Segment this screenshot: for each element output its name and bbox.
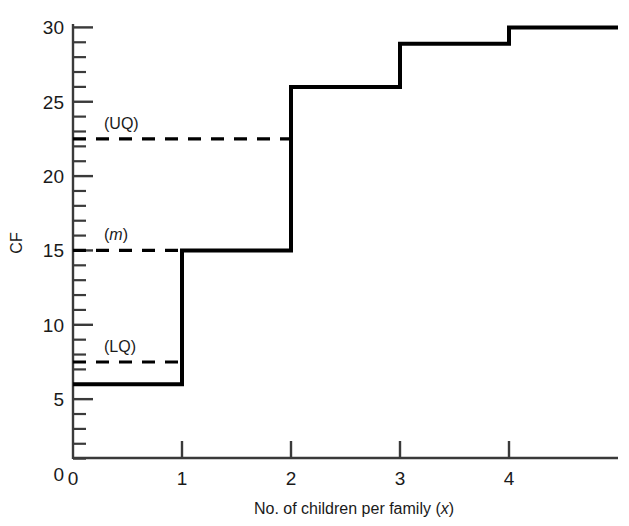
x-axis-title-main: No. of children per family ( (254, 500, 441, 517)
y-axis-tick-label: 25 (43, 92, 64, 113)
x-axis-tick-label: 1 (177, 468, 188, 489)
x-axis-title: No. of children per family (x) (254, 500, 454, 517)
y-axis-tick-label: 20 (43, 166, 64, 187)
y-axis-tick-label: 15 (43, 240, 64, 261)
reference-label-median: (m) (104, 226, 128, 243)
y-axis-tick-label: 10 (43, 315, 64, 336)
chart-figure: 051015202530 01234 (UQ)(m)(LQ) CF No. of… (0, 0, 629, 526)
y-axis-tick-label: 0 (53, 464, 64, 485)
chart-background (0, 0, 629, 526)
x-axis-tick-label: 0 (68, 468, 79, 489)
x-axis-title-close: ) (449, 500, 454, 517)
y-axis-tick-label: 30 (43, 17, 64, 38)
x-axis-tick-label: 3 (395, 468, 406, 489)
y-axis-tick-label: 5 (53, 389, 64, 410)
reference-label-lq: (LQ) (104, 338, 136, 355)
x-axis-tick-label: 2 (286, 468, 297, 489)
x-axis-tick-label: 4 (504, 468, 515, 489)
y-axis-title: CF (8, 232, 25, 254)
cumulative-frequency-chart: 051015202530 01234 (UQ)(m)(LQ) CF No. of… (0, 0, 629, 526)
reference-label-uq: (UQ) (104, 115, 139, 132)
